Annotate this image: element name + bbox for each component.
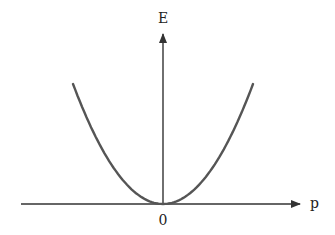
dispersion-diagram: E p 0 [0,0,335,235]
x-axis-label: p [310,195,319,211]
y-axis-label: E [158,10,168,26]
origin-label: 0 [159,212,168,228]
